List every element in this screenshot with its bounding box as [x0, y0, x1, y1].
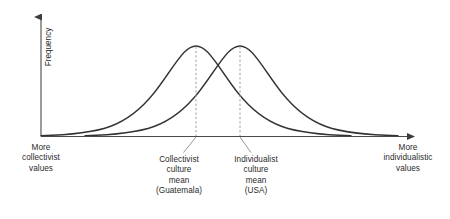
right-anchor-line-3: values [368, 164, 448, 174]
right-anchor-line-2: individualistic [368, 153, 448, 163]
collectivist-line-3: mean [141, 176, 217, 186]
collectivist-line-4: (Guatemala) [141, 186, 217, 196]
right-anchor-line-1: More [368, 143, 448, 153]
leader-line-collectivist [184, 137, 197, 153]
x-axis-left-anchor-label: More collectivist values [2, 143, 80, 174]
cultural-values-distribution-chart: Frequency More collectivist values More … [0, 0, 450, 219]
curve-individualist [85, 46, 398, 136]
leader-line-individualist [240, 137, 251, 153]
x-axis-right-anchor-label: More individualistic values [368, 143, 448, 174]
individualist-line-1: Individualist [218, 155, 294, 165]
annotation-individualist-mean: Individualist culture mean (USA) [218, 155, 294, 197]
left-anchor-line-1: More [2, 143, 80, 153]
annotation-collectivist-mean: Collectivist culture mean (Guatemala) [141, 155, 217, 197]
left-anchor-line-3: values [2, 164, 80, 174]
individualist-line-3: mean [218, 176, 294, 186]
individualist-line-4: (USA) [218, 186, 294, 196]
collectivist-line-2: culture [141, 165, 217, 175]
individualist-line-2: culture [218, 165, 294, 175]
y-axis-label: Frequency [44, 12, 54, 82]
left-anchor-line-2: collectivist [2, 153, 80, 163]
collectivist-line-1: Collectivist [141, 155, 217, 165]
